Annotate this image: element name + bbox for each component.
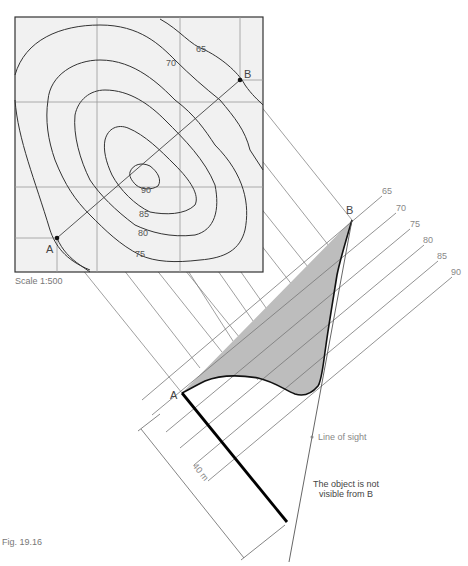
note-line-2: visible from B [319,489,373,499]
profile-point-a-label: A [170,389,178,401]
scale-label: Scale 1:500 [15,276,63,286]
elevation-label-90: 90 [451,267,461,277]
dimension-extension-bottom [241,525,285,560]
contour-label-90: 90 [141,185,151,195]
contour-label-70: 70 [166,58,176,68]
dimension-40m [138,414,285,560]
object-line [182,393,287,522]
dimension-extension-top [138,414,160,431]
elevation-label-80: 80 [423,235,433,245]
contour-map: A B 65 70 75 80 85 90 Scale 1:500 [15,17,263,286]
point-b-marker [238,78,243,83]
line-of-sight-label: Line of sight [318,432,367,442]
figure-caption: Fig. 19.16 [2,537,42,547]
point-a-marker [55,236,60,241]
note-line-1: The object is not [313,479,380,489]
map-point-a-label: A [46,243,54,255]
distance-label: 40 m [190,461,210,483]
elevation-label-70: 70 [396,203,406,213]
map-point-b-label: B [244,68,251,80]
elevation-label-75: 75 [410,219,420,229]
contour-label-80: 80 [138,228,148,238]
line-of-sight-diagram: A B 65 70 75 80 85 90 Scale 1:500 65 70 … [0,0,468,566]
contour-label-85: 85 [139,209,149,219]
elevation-label-65: 65 [382,186,392,196]
contour-label-75: 75 [135,249,145,259]
profile-point-b-label: B [346,204,353,216]
elevation-label-85: 85 [437,251,447,261]
line-of-sight-marker [311,436,314,439]
contour-label-65: 65 [196,44,206,54]
